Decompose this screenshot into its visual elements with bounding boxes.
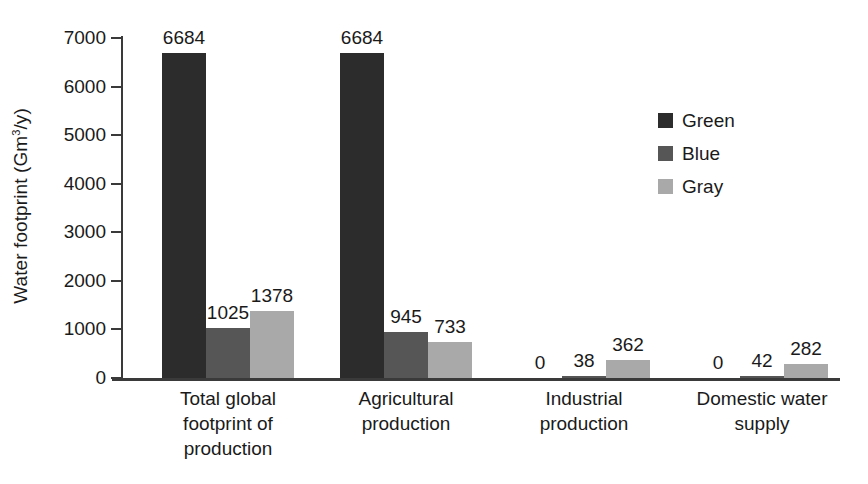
y-axis-tick-label: 7000 — [6, 27, 106, 49]
bar-value-label: 945 — [390, 306, 422, 328]
y-axis-tick-label: 4000 — [6, 173, 106, 195]
y-axis-tick — [111, 328, 122, 330]
x-axis-category-label-line: production — [540, 411, 629, 436]
bar-value-label: 6684 — [163, 27, 205, 49]
x-axis-category-label-line: Agricultural — [358, 386, 453, 411]
x-axis-category-label: Agriculturalproduction — [358, 386, 453, 436]
bar-value-label: 282 — [790, 338, 822, 360]
y-axis-tick-label: 2000 — [6, 270, 106, 292]
y-axis-tick — [111, 86, 122, 88]
x-axis-category-label-line: footprint of — [180, 411, 276, 436]
y-axis-tick — [111, 231, 122, 233]
y-axis-tick — [111, 183, 122, 185]
bar-value-label: 38 — [573, 350, 594, 372]
x-axis-category-label-line: Domestic water — [697, 386, 828, 411]
bar-value-label: 6684 — [341, 27, 383, 49]
bar-value-label: 0 — [535, 352, 546, 374]
bar-value-label: 42 — [751, 350, 772, 372]
bar-chart: Water footprint (Gm3/y) 0100020003000400… — [0, 0, 868, 484]
legend-label: Green — [682, 110, 735, 132]
bar — [784, 364, 828, 378]
x-axis-category-label-line: supply — [697, 411, 828, 436]
bar — [740, 376, 784, 378]
chart-legend: GreenBlueGray — [658, 104, 735, 203]
bar — [428, 342, 472, 378]
legend-item: Gray — [658, 170, 735, 203]
legend-swatch-icon — [658, 179, 673, 194]
y-axis-tick-label: 5000 — [6, 124, 106, 146]
y-axis-tick-label: 1000 — [6, 318, 106, 340]
x-axis-category-label: Domestic watersupply — [697, 386, 828, 436]
bar — [562, 376, 606, 378]
bar — [340, 53, 384, 378]
legend-item: Green — [658, 104, 735, 137]
bar-value-label: 0 — [713, 352, 724, 374]
legend-swatch-icon — [658, 113, 673, 128]
bar-value-label: 1378 — [251, 285, 293, 307]
x-axis-category-label-line: Total global — [180, 386, 276, 411]
y-axis-tick-label: 6000 — [6, 76, 106, 98]
bar — [162, 53, 206, 378]
x-axis-line — [112, 378, 840, 381]
x-axis-category-label-line: Industrial — [540, 386, 629, 411]
y-axis-tick — [111, 134, 122, 136]
bar-value-label: 733 — [434, 316, 466, 338]
legend-swatch-icon — [658, 146, 673, 161]
bar — [206, 328, 250, 378]
bar — [250, 311, 294, 378]
y-axis-tick-label: 3000 — [6, 221, 106, 243]
y-axis-title: Water footprint (Gm3/y) — [10, 56, 32, 356]
legend-label: Blue — [682, 143, 720, 165]
bar-value-label: 1025 — [207, 302, 249, 324]
bar — [606, 360, 650, 378]
x-axis-category-label: Industrialproduction — [540, 386, 629, 436]
x-axis-category-label-line: production — [180, 436, 276, 461]
legend-label: Gray — [682, 176, 723, 198]
bar — [384, 332, 428, 378]
bar-value-label: 362 — [612, 334, 644, 356]
legend-item: Blue — [658, 137, 735, 170]
x-axis-category-label-line: production — [358, 411, 453, 436]
y-axis-tick — [111, 377, 122, 379]
x-axis-category-label: Total globalfootprint ofproduction — [180, 386, 276, 461]
y-axis-tick — [111, 280, 122, 282]
y-axis-tick-label: 0 — [6, 367, 106, 389]
y-axis-tick — [111, 37, 122, 39]
